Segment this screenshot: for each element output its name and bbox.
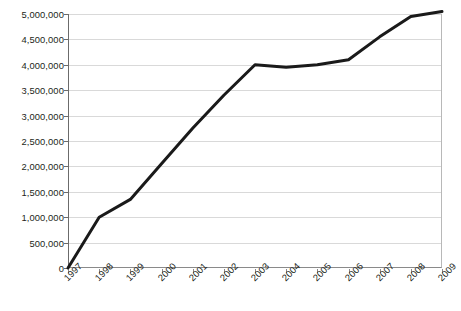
gridline [68, 65, 441, 66]
gridline [68, 14, 441, 15]
y-axis-tick [64, 192, 68, 193]
y-axis-tick-label: 1,500,000 [2, 188, 64, 197]
y-axis-tick [64, 14, 68, 15]
y-axis-tick [64, 65, 68, 66]
y-axis-labels: 5,000,000 4,500,000 4,000,000 3,500,000 … [0, 0, 64, 311]
y-axis-tick [64, 116, 68, 117]
y-axis-tick-label: 5,000,000 [2, 10, 64, 19]
y-axis-tick-label: 3,500,000 [2, 86, 64, 95]
y-axis-tick [64, 166, 68, 167]
y-axis-tick-label: 0 [2, 264, 64, 273]
y-axis-tick [64, 39, 68, 40]
y-axis-tick-label: 4,000,000 [2, 61, 64, 70]
y-axis-tick-label: 4,500,000 [2, 35, 64, 44]
gridline [68, 116, 441, 117]
gridline [68, 166, 441, 167]
gridline [68, 90, 441, 91]
line-chart: 5,000,000 4,500,000 4,000,000 3,500,000 … [0, 0, 461, 311]
y-axis-tick [64, 217, 68, 218]
gridline [68, 141, 441, 142]
y-axis-tick-label: 500,000 [2, 239, 64, 248]
y-axis-tick-label: 1,000,000 [2, 213, 64, 222]
gridline [68, 217, 441, 218]
y-axis-tick-label: 3,000,000 [2, 112, 64, 121]
y-axis-tick [64, 141, 68, 142]
plot-area [68, 14, 442, 268]
gridline [68, 39, 441, 40]
y-axis-tick-label: 2,500,000 [2, 137, 64, 146]
y-axis-tick [64, 243, 68, 244]
gridline [68, 243, 441, 244]
gridline [68, 192, 441, 193]
y-axis-tick [64, 90, 68, 91]
y-axis-line [68, 14, 69, 269]
y-axis-tick-label: 2,000,000 [2, 162, 64, 171]
x-axis-tick-label: 1997 [62, 261, 84, 283]
